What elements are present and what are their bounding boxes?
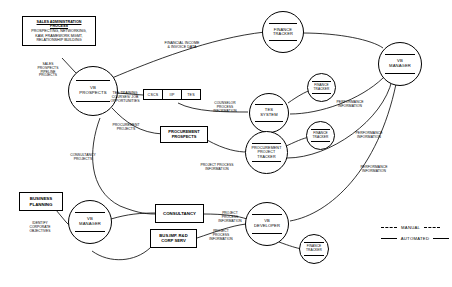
flow-project-process-busimp: PROJECT PROCESS INFORMATION [202,230,240,241]
process-finance-tracker-developer[interactable]: FINANCE TRACKER [299,234,329,264]
entity-procurement-prospects[interactable]: PROCUREMENT PROSPECTS [160,126,208,143]
entity-consultancy[interactable]: CONSULTANCY [155,204,204,223]
sales-admin-title-line2: PROCESS [50,24,68,28]
flow-tes-training: TES TRAINING COURSES/ JOB OPPORTUNITIES [104,91,146,103]
legend-manual-line-right [424,227,440,228]
entity-business-planning[interactable]: BUSINESS PLANNING [19,192,63,211]
process-tes-system[interactable]: TES SYSTEM [249,93,289,133]
legend-automated-label: AUTOMATED [397,236,434,241]
process-vb-developer[interactable]: VB DEVELOPER [245,202,289,246]
legend-manual: MANUAL [381,222,449,233]
entity-bus-imp-rd-corp-serv[interactable]: BUS.IMP. R&D CORP SERV [150,229,197,248]
flow-procurement-projects: PROCUREMENT PROJECTS [103,124,149,132]
flow-consultancy-projects: CONSULTANCY PROJECTS [62,154,104,162]
finance-tracker-developer-label: FINANCE TRACKER [304,245,324,252]
legend: MANUAL AUTOMATED [381,222,449,244]
business-planning-label: BUSINESS PLANNING [30,196,53,206]
flow-performance-top: PERFORMANCE INFORMATION [326,101,374,109]
flow-project-process-procurement: PROJECT PROCESS INFORMATION [188,164,246,172]
process-vb-manager-bottom[interactable]: VB MANAGER [68,200,112,244]
legend-automated-line [381,238,397,239]
finance-tracker-tes-label: FINANCE TRACKER [312,84,332,91]
tes-system-label: TES SYSTEM [258,108,279,117]
finance-tracker-procurement-label: FINANCE TRACKER [311,132,331,139]
procurement-prospects-label: PROCUREMENT PROSPECTS [168,130,199,139]
sales-admin-subtext: PROSPECTING, NETWORKING, KAM, FRAMEWORK … [31,29,86,42]
store-cell-iip[interactable]: IIP [163,90,182,99]
vb-manager-bottom-label: VB MANAGER [77,217,103,226]
legend-manual-line [381,227,397,228]
flow-financial-income: FINANCIAL INCOME & INVOICE DATA [152,41,212,49]
flow-counselor-process: COUNSELOR PROCESS INFORMATION [204,102,246,113]
legend-automated-line-right [433,238,449,239]
flow-performance-low: PERFORMANCE INFORMATION [350,166,398,174]
procurement-project-tracker-label: PROCUREMENT PROJECT TRACKER [250,146,284,158]
finance-tracker-top-label: FINANCE TRACKER [271,28,295,37]
flow-sales-prospects: SALES PROSPECTS PIPELINE PROJECTS [31,63,65,78]
store-cell-tes[interactable]: TES [182,90,200,99]
consultancy-label: CONSULTANCY [163,211,196,216]
vb-developer-label: VB DEVELOPER [252,219,282,228]
flow-project-process-consultancy: PROJECT PROCESS INFORMATION [212,212,248,223]
process-finance-tracker-procurement[interactable]: FINANCE TRACKER [306,121,335,150]
process-finance-tracker-top[interactable]: FINANCE TRACKER [262,11,304,53]
flow-identify-objectives: IDENTIFY CORPORATE OBJECTIVES [20,222,60,233]
flow-performance-mid: PERFORMANCE INFORMATION [345,132,393,140]
process-finance-tracker-tes[interactable]: FINANCE TRACKER [307,73,336,102]
legend-automated: AUTOMATED [381,233,449,244]
accreditation-store[interactable]: CSCS IIP TES [143,89,201,100]
process-procurement-project-tracker[interactable]: PROCUREMENT PROJECT TRACKER [245,131,288,174]
dfd-canvas: SALES ADMINISTRATION PROCESS PROSPECTING… [0,0,452,287]
vb-manager-right-label: VB MANAGER [387,59,413,68]
store-cell-cscs[interactable]: CSCS [144,90,163,99]
entity-sales-administration-process[interactable]: SALES ADMINISTRATION PROCESS PROSPECTING… [22,16,96,46]
legend-manual-label: MANUAL [397,225,424,230]
process-vb-manager-right[interactable]: VB MANAGER [378,42,422,86]
bus-imp-label: BUS.IMP. R&D CORP SERV [159,234,187,244]
